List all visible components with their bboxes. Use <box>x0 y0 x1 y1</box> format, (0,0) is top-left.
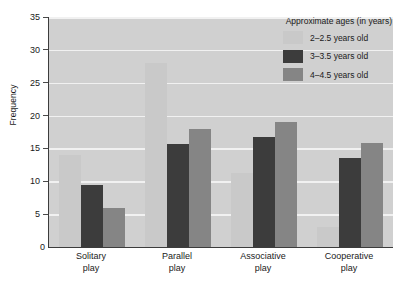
legend-swatch <box>283 68 303 81</box>
x-axis-label: Cooperativeplay <box>306 251 392 274</box>
bar <box>103 208 125 247</box>
bar <box>361 143 383 247</box>
bar-chart-figure: Frequency 05101520253035 SolitaryplayPar… <box>0 0 401 283</box>
y-axis-tick: 0 <box>40 241 48 253</box>
y-axis-tick-label: 20 <box>30 111 43 121</box>
bar <box>339 158 361 247</box>
y-axis-tick: 5 <box>35 208 48 220</box>
bar <box>145 63 167 247</box>
y-axis-tick-label: 5 <box>35 209 43 219</box>
legend-label: 4–4.5 years old <box>303 70 394 80</box>
y-axis-tick: 35 <box>30 11 48 23</box>
bar <box>231 173 253 247</box>
legend-label: 3–3.5 years old <box>303 51 394 61</box>
y-axis-tick: 30 <box>30 44 48 56</box>
y-axis-tick-label: 35 <box>30 12 43 22</box>
legend-title: Approximate ages (in years) <box>222 16 394 26</box>
y-axis-tick-label: 0 <box>40 242 48 252</box>
y-axis-tick-label: 25 <box>30 78 43 88</box>
bar <box>81 185 103 247</box>
legend-item: 4–4.5 years old <box>222 68 394 81</box>
bar <box>59 155 81 247</box>
bar <box>317 227 339 247</box>
y-axis-tick: 20 <box>30 110 48 122</box>
x-axis-label: Associativeplay <box>220 251 306 274</box>
legend-swatch <box>283 50 303 63</box>
legend-rows: 2–2.5 years old3–3.5 years old4–4.5 year… <box>222 31 394 81</box>
bar <box>275 122 297 247</box>
legend-swatch <box>283 31 303 44</box>
legend-item: 3–3.5 years old <box>222 50 394 63</box>
y-axis-tick-label: 10 <box>30 176 43 186</box>
chart-legend: Approximate ages (in years) 2–2.5 years … <box>222 16 394 87</box>
x-axis-labels: SolitaryplayParallelplayAssociativeplayC… <box>48 251 392 283</box>
y-axis-tick-label: 30 <box>30 45 43 55</box>
bar <box>253 137 275 247</box>
legend-item: 2–2.5 years old <box>222 31 394 44</box>
x-axis-label: Solitaryplay <box>48 251 134 274</box>
legend-label: 2–2.5 years old <box>303 33 394 43</box>
y-axis-tick-label: 15 <box>30 143 43 153</box>
y-axis-tick: 15 <box>30 142 48 154</box>
y-axis-tick: 10 <box>30 175 48 187</box>
x-axis-label: Parallelplay <box>134 251 220 274</box>
y-axis: 05101520253035 <box>0 0 48 283</box>
y-axis-tick: 25 <box>30 77 48 89</box>
bar <box>189 129 211 247</box>
bar <box>167 144 189 247</box>
